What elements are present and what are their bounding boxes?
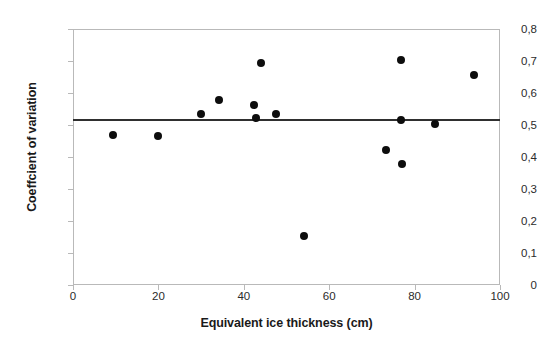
x-tick-label: 80 xyxy=(385,290,445,302)
data-point xyxy=(398,160,406,168)
x-tick-label: 20 xyxy=(128,290,188,302)
x-tick-mark xyxy=(415,285,416,290)
x-tick-label: 60 xyxy=(299,290,359,302)
data-point xyxy=(252,114,260,122)
y-axis-title: Coeffcient of variation xyxy=(25,37,39,257)
data-point xyxy=(197,110,205,118)
data-point xyxy=(397,56,405,64)
data-point xyxy=(397,116,405,124)
data-point xyxy=(250,101,258,109)
data-point xyxy=(470,71,478,79)
x-tick-label: 40 xyxy=(214,290,274,302)
data-point xyxy=(431,120,439,128)
data-point xyxy=(382,146,390,154)
data-point xyxy=(300,232,308,240)
data-point xyxy=(272,110,280,118)
x-tick-label: 0 xyxy=(43,290,103,302)
x-tick-mark xyxy=(158,285,159,290)
x-axis-title: Equivalent ice thickness (cm) xyxy=(73,316,500,330)
x-tick-mark xyxy=(500,285,501,290)
scatter-chart: Coeffcient of variation 00,10,20,30,40,5… xyxy=(0,0,537,341)
x-tick-mark xyxy=(329,285,330,290)
x-tick-mark xyxy=(73,285,74,290)
data-layer xyxy=(73,29,500,285)
data-point xyxy=(154,132,162,140)
x-tick-mark xyxy=(244,285,245,290)
data-point xyxy=(257,59,265,67)
x-tick-label: 100 xyxy=(470,290,530,302)
data-point xyxy=(109,131,117,139)
data-point xyxy=(215,96,223,104)
